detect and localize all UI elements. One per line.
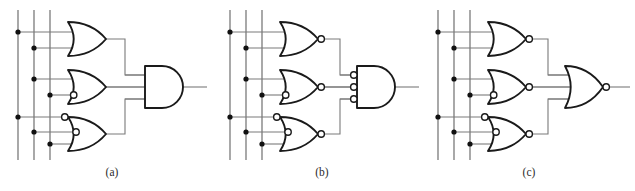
gate-b-and-out-input-1-inversion-bubble-icon (351, 84, 357, 90)
wire-b-g1-to-and (325, 39, 352, 75)
panel-b: (b) (227, 10, 419, 179)
gate-b-and-out (357, 66, 395, 108)
junction-dot-c-6 (467, 141, 472, 146)
junction-dot-b-2 (243, 76, 248, 81)
junction-dot-a-5 (31, 129, 36, 134)
junction-dot-a-1 (31, 45, 36, 50)
junction-dot-b-6 (259, 141, 264, 146)
gate-a-or-2 (68, 70, 106, 104)
gate-a-or-1 (68, 22, 106, 56)
gate-c-nor-1-output-inversion-bubble-icon (526, 36, 532, 42)
junction-dot-c-2 (451, 76, 456, 81)
wire-b-g3-to-and (325, 99, 352, 134)
junction-dot-c-0 (435, 29, 440, 34)
gate-b-nor-3-input-0-inversion-bubble-icon (274, 114, 280, 120)
gate-b-nor-2-output-inversion-bubble-icon (318, 84, 324, 90)
gate-a-or-3-input-0-inversion-bubble-icon (62, 114, 68, 120)
junction-dot-b-4 (227, 114, 232, 119)
panel-a: (a) (15, 10, 207, 179)
junction-dot-b-3 (259, 92, 264, 97)
gate-a-and-out (145, 66, 183, 108)
junction-dot-b-1 (243, 45, 248, 50)
wire-c-g1-to-nor (533, 39, 570, 75)
junction-dot-a-2 (31, 76, 36, 81)
gate-b-nor-2 (280, 70, 318, 104)
gate-c-nor-2 (488, 70, 526, 104)
gate-c-nor-3-output-inversion-bubble-icon (526, 131, 532, 137)
junction-dot-a-4 (15, 114, 20, 119)
junction-dot-b-0 (227, 29, 232, 34)
gate-b-nor-1 (280, 22, 318, 56)
gate-b-and-out-input-0-inversion-bubble-icon (351, 72, 357, 78)
junction-dot-c-4 (435, 114, 440, 119)
caption-b: (b) (315, 166, 329, 179)
junction-dot-a-6 (47, 141, 52, 146)
gate-b-and-out-input-2-inversion-bubble-icon (351, 96, 357, 102)
junction-dot-b-5 (243, 129, 248, 134)
gate-c-nor-out (565, 66, 603, 108)
gate-c-nor-3-input-0-inversion-bubble-icon (482, 114, 488, 120)
logic-circuit-figure: (a)(b)(c) (0, 0, 635, 191)
junction-dot-a-3 (47, 92, 52, 97)
gate-c-nor-2-input-1-inversion-bubble-icon (490, 92, 496, 98)
gate-c-nor-3-input-1-inversion-bubble-icon (493, 129, 499, 135)
junction-dot-a-0 (15, 29, 20, 34)
junction-dot-c-1 (451, 45, 456, 50)
gate-b-nor-3-input-1-inversion-bubble-icon (285, 129, 291, 135)
panel-c: (c) (435, 10, 630, 179)
gate-a-or-2-input-1-inversion-bubble-icon (70, 92, 76, 98)
junction-dot-c-5 (451, 129, 456, 134)
caption-c: (c) (523, 166, 536, 179)
gate-c-nor-out-output-inversion-bubble-icon (603, 84, 609, 90)
gate-b-nor-1-output-inversion-bubble-icon (318, 36, 324, 42)
caption-a: (a) (106, 166, 119, 179)
junction-dot-c-3 (467, 92, 472, 97)
circuit-diagram-canvas: (a)(b)(c) (0, 0, 635, 191)
wire-a-g1-to-and (106, 39, 145, 75)
wire-c-g3-to-nor (533, 99, 570, 134)
gate-c-nor-2-output-inversion-bubble-icon (526, 84, 532, 90)
gate-c-nor-1 (488, 22, 526, 56)
gate-b-nor-3-output-inversion-bubble-icon (318, 131, 324, 137)
wire-a-g3-to-and (106, 99, 145, 134)
gate-b-nor-2-input-1-inversion-bubble-icon (282, 92, 288, 98)
gate-a-or-3-input-1-inversion-bubble-icon (73, 129, 79, 135)
